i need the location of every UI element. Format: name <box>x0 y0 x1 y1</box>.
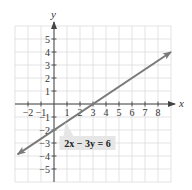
x-tick-label: 8 <box>156 107 161 118</box>
x-tick-label: 4 <box>104 107 109 118</box>
x-tick-label: 5 <box>117 107 122 118</box>
x-tick-label: −2 <box>23 107 34 118</box>
x-tick-label: 6 <box>130 107 135 118</box>
y-tick-label: 5 <box>45 34 50 45</box>
y-axis-label: y <box>50 8 56 20</box>
y-tick-label: −1 <box>39 112 50 123</box>
x-tick-label: 7 <box>143 107 148 118</box>
x-tick-label: 3 <box>91 107 96 118</box>
x-axis-label: x <box>178 97 184 109</box>
equation-text: 2x − 3y = 6 <box>64 138 110 149</box>
equation-label: 2x − 3y = 6 <box>60 122 116 150</box>
y-tick-label: 2 <box>45 73 50 84</box>
x-tick-label: 1 <box>65 107 70 118</box>
y-tick-label: −5 <box>39 164 50 175</box>
label-pointer <box>64 122 74 136</box>
y-tick-label: −4 <box>39 151 50 162</box>
y-tick-label: 1 <box>45 86 50 97</box>
coordinate-plane: xy −2−11234567854321−1−2−3−4−5 2x − 3y =… <box>0 0 192 190</box>
y-tick-label: 3 <box>45 60 50 71</box>
y-tick-label: 4 <box>45 47 50 58</box>
